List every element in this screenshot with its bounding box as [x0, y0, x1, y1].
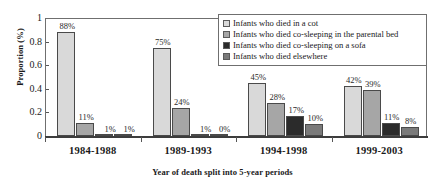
legend: Infants who died in a cot Infants who di… — [218, 14, 427, 66]
bar-value-label: 45% — [244, 73, 272, 82]
legend-item-elsewhere: Infants who died elsewhere — [223, 51, 422, 62]
legend-swatch-icon — [223, 53, 230, 60]
bar — [76, 123, 94, 136]
bar — [305, 124, 323, 136]
y-tick-label: 0.2 — [16, 107, 42, 117]
x-tick-mark — [332, 137, 333, 142]
legend-label: Infants who died in a cot — [233, 19, 318, 28]
bar-value-label: 10% — [301, 114, 329, 123]
bar — [248, 83, 266, 136]
bar-value-label: 0% — [211, 125, 239, 134]
y-tick-label: 0 — [16, 131, 42, 141]
y-tick-label: 0.6 — [16, 60, 42, 70]
bar — [344, 86, 362, 136]
bar-chart: Proportion (%) 1 0.8 0.6 0.4 0.2 0 88%11… — [0, 0, 445, 187]
bar-value-label: 1% — [115, 125, 143, 134]
bar — [153, 48, 171, 137]
legend-label: Infants who died co-sleeping in the pare… — [233, 30, 398, 39]
bar-value-label: 28% — [263, 93, 291, 102]
x-tick-mark — [141, 137, 142, 142]
legend-swatch-icon — [223, 42, 230, 49]
bar-value-label: 24% — [168, 98, 196, 107]
x-tick-mark — [45, 137, 46, 142]
bar-value-label: 39% — [359, 80, 387, 89]
legend-item-sofa: Infants who died co-sleeping on a sofa — [223, 40, 422, 51]
bar-value-label: 8% — [397, 117, 425, 126]
y-tick-label: 0.4 — [16, 84, 42, 94]
bar-value-label: 11% — [72, 113, 100, 122]
x-axis-tick-marks — [45, 137, 427, 143]
legend-swatch-icon — [223, 20, 230, 27]
legend-label: Infants who died elsewhere — [233, 52, 327, 61]
y-axis-tick-labels: 1 0.8 0.6 0.4 0.2 0 — [12, 0, 42, 187]
bar — [401, 127, 419, 136]
legend-swatch-icon — [223, 31, 230, 38]
bar-value-label: 75% — [149, 38, 177, 47]
x-category-label: 1989-1993 — [141, 145, 237, 156]
x-tick-mark — [236, 137, 237, 142]
x-category-label: 1994-1998 — [236, 145, 332, 156]
bar — [172, 108, 190, 136]
legend-item-cot: Infants who died in a cot — [223, 18, 422, 29]
y-tick-label: 1 — [16, 13, 42, 23]
x-category-label: 1999-2003 — [332, 145, 428, 156]
x-axis-title: Year of death split into 5-year periods — [0, 167, 445, 177]
bar-value-label: 88% — [53, 22, 81, 31]
y-tick-label: 0.8 — [16, 37, 42, 47]
legend-item-parental-bed: Infants who died co-sleeping in the pare… — [223, 29, 422, 40]
legend-label: Infants who died co-sleeping on a sofa — [233, 41, 366, 50]
x-category-label: 1984-1988 — [45, 145, 141, 156]
